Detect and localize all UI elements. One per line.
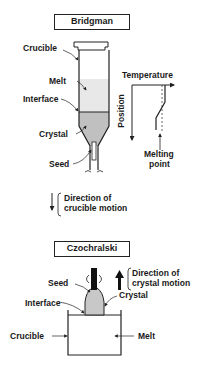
- crucible-motion-line1: Direction of: [64, 193, 111, 203]
- czochralski-label-seed: Seed: [48, 278, 68, 288]
- bridgman-crucible: [74, 42, 109, 172]
- crystal-motion-line2: crystal motion: [132, 278, 190, 288]
- graph-y-axis-label: Position: [116, 94, 126, 128]
- bridgman-label-melt: Melt: [49, 76, 66, 86]
- czochralski-title: Czochralski: [54, 241, 130, 257]
- bridgman-title: Bridgman: [54, 14, 130, 30]
- bridgman-label-crystal: Crystal: [39, 129, 68, 139]
- diagram-canvas: [0, 0, 204, 368]
- czochralski-label-melt: Melt: [138, 331, 155, 341]
- czochralski-label-crucible: Crucible: [10, 331, 44, 341]
- melting-point-label-line2: point: [149, 159, 170, 169]
- bridgman-label-seed: Seed: [49, 159, 69, 169]
- czochralski-apparatus: [68, 268, 131, 355]
- bridgman-label-interface: Interface: [23, 94, 58, 104]
- czochralski-label-interface: Interface: [25, 298, 60, 308]
- czochralski-label-crystal: Crystal: [119, 290, 148, 300]
- temperature-graph: [132, 85, 174, 150]
- crucible-motion-line2: crucible motion: [64, 203, 127, 213]
- crucible-motion-indicator: [52, 193, 61, 216]
- melting-point-label-line1: Melting: [144, 149, 174, 159]
- graph-x-axis-label: Temperature: [122, 70, 173, 80]
- crystal-motion-line1: Direction of: [132, 268, 179, 278]
- bridgman-label-crucible: Crucible: [23, 43, 57, 53]
